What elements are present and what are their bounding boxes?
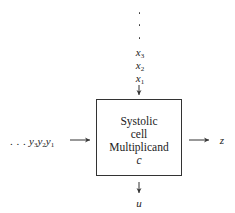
arrows-layer [0,0,235,213]
